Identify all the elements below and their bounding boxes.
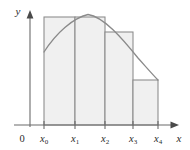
origin-label: 0 bbox=[19, 133, 24, 144]
tick-label-x2-subscript: 2 bbox=[106, 138, 110, 146]
figure-canvas: y x 0 x0 x1 x2 x3 x4 bbox=[0, 0, 190, 150]
tick-label-x2: x2 bbox=[100, 133, 110, 146]
tick-label-x0-subscript: 0 bbox=[45, 138, 49, 146]
tick-label-x3-subscript: 3 bbox=[134, 138, 138, 146]
tick-label-x1: x1 bbox=[70, 133, 80, 146]
x-axis-arrowhead bbox=[171, 122, 180, 129]
tick-label-x4: x4 bbox=[153, 133, 163, 146]
rectangle-bar-4 bbox=[133, 80, 158, 125]
rectangle-group bbox=[44, 17, 158, 125]
riemann-sum-figure: y x 0 x0 x1 x2 x3 x4 bbox=[0, 0, 190, 150]
x-axis-label: x bbox=[176, 132, 182, 144]
y-axis-label: y bbox=[15, 5, 21, 17]
tick-label-x4-subscript: 4 bbox=[159, 138, 163, 146]
tick-label-x3: x3 bbox=[128, 133, 138, 146]
y-axis bbox=[27, 10, 34, 127]
x-axis-tick-label-group: x0 x1 x2 x3 x4 bbox=[39, 133, 163, 146]
tick-label-x1-subscript: 1 bbox=[76, 138, 80, 146]
y-axis-arrowhead bbox=[27, 10, 34, 19]
tick-label-x0: x0 bbox=[39, 133, 49, 146]
rectangle-bar-2 bbox=[75, 17, 105, 125]
